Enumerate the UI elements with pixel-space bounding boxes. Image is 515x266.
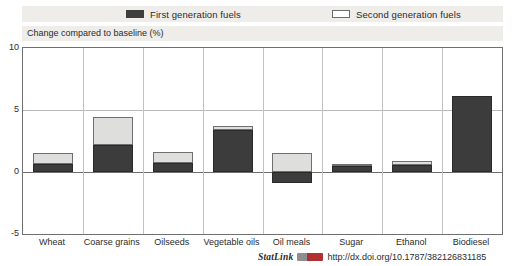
bar-group[interactable] [452,48,492,234]
category-separator [143,48,144,234]
y-tick-label: 5 [1,105,19,114]
x-tick-label: Wheat [22,237,82,247]
plot-area [22,47,503,235]
y-axis: 1050-5 [0,47,19,235]
chart-legend: First generation fuels Second generation… [22,6,503,22]
bar-segment-second-generation[interactable] [153,152,193,163]
legend-label-second-generation: Second generation fuels [356,9,461,20]
category-separator [322,48,323,234]
y-tick-label: -5 [1,229,19,238]
bar-segment-second-generation[interactable] [392,161,432,165]
x-tick-label: Oilseeds [142,237,202,247]
statlink-url[interactable]: http://dx.doi.org/10.1787/382126831185 [327,252,486,262]
category-separator [203,48,204,234]
bar-segment-second-generation[interactable] [332,164,372,166]
category-separator [382,48,383,234]
category-separator [83,48,84,234]
x-tick-label: Oil meals [262,237,322,247]
y-axis-caption: Change compared to baseline (%) [27,28,164,38]
figure-biofuel-price-impact: First generation fuels Second generation… [0,0,515,266]
legend-swatch-icon-second-generation [332,10,350,18]
axis-caption-band: Change compared to baseline (%) [22,26,503,41]
bar-segment-second-generation[interactable] [33,153,73,164]
x-tick-label: Sugar [321,237,381,247]
legend-label-first-generation: First generation fuels [150,9,241,20]
legend-item-first-generation-fuels[interactable]: First generation fuels [126,6,241,22]
bar-segment-first-generation[interactable] [213,130,253,172]
x-tick-label: Biodiesel [441,237,501,247]
x-tick-label: Coarse grains [82,237,142,247]
legend-item-second-generation-fuels[interactable]: Second generation fuels [332,6,461,22]
bar-group[interactable] [332,48,372,234]
bar-segment-first-generation[interactable] [452,96,492,172]
y-tick-label: 0 [1,167,19,176]
bar-segment-first-generation[interactable] [33,164,73,172]
bar-group[interactable] [392,48,432,234]
figure-title-cutoff [150,0,370,5]
bar-segment-first-generation[interactable] [93,145,133,172]
x-tick-label: Ethanol [381,237,441,247]
x-axis-labels: WheatCoarse grainsOilseedsVegetable oils… [22,237,503,250]
y-tick-label: 10 [1,43,19,52]
bar-group[interactable] [93,48,133,234]
statlink-badge-icon [297,253,323,261]
bar-segment-second-generation[interactable] [93,117,133,144]
bar-segment-second-generation[interactable] [272,153,312,172]
bar-segment-second-generation[interactable] [213,126,253,130]
legend-swatch-icon-first-generation [126,10,144,18]
x-tick-label: Vegetable oils [202,237,262,247]
bar-segment-first-generation[interactable] [272,172,312,183]
statlink-footer: StatLink http://dx.doi.org/10.1787/38212… [258,252,486,262]
bar-group[interactable] [272,48,312,234]
statlink-label: StatLink [258,252,293,262]
category-separator [263,48,264,234]
category-separator [442,48,443,234]
bar-segment-first-generation[interactable] [332,166,372,172]
bar-group[interactable] [153,48,193,234]
bar-group[interactable] [33,48,73,234]
bar-segment-first-generation[interactable] [153,163,193,172]
bar-group[interactable] [213,48,253,234]
bar-segment-first-generation[interactable] [392,165,432,172]
